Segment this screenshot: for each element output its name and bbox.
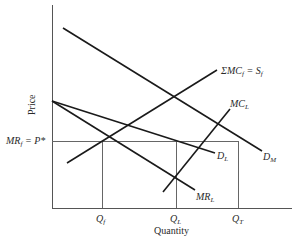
leader-demand-curve (52, 101, 215, 153)
curves (52, 28, 262, 192)
x-axis-label: Quantity (154, 225, 189, 236)
leader-mr-curve (52, 101, 195, 190)
qt-label: QT (232, 213, 244, 226)
leader-mc-label: MCL (229, 98, 249, 111)
market-demand-curve (63, 28, 262, 151)
fringe-supply-curve (67, 70, 217, 163)
leader-demand-label: DL (216, 150, 228, 163)
qf-label: Qf (96, 213, 106, 226)
axes (52, 5, 292, 209)
fringe-supply-label: ΣMCf = Sf (220, 65, 264, 78)
dominant-firm-diagram: Price Quantity MRf = P* Qf QL QT DM DL M… (0, 0, 296, 241)
y-axis-label: Price (26, 94, 37, 115)
market-demand-label: DM (262, 151, 277, 164)
leader-mr-label: MRL (195, 191, 214, 204)
price-level-label: MRf = P* (5, 135, 45, 148)
